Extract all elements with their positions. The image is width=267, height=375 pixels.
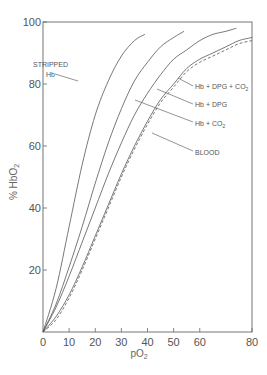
curve-hb-dpg-co2 — [43, 38, 252, 333]
x-tick-label: 20 — [89, 336, 101, 348]
x-tick-label: 30 — [115, 336, 127, 348]
y-tick-label: 40 — [29, 202, 41, 214]
x-tick-label: 40 — [141, 336, 153, 348]
x-axis-title: pO2 — [130, 348, 147, 360]
curve-hb-co2 — [43, 31, 184, 332]
label-stripped: STRIPPED — [33, 61, 68, 68]
x-tick-label: 10 — [63, 336, 75, 348]
x-tick-label: 60 — [194, 336, 206, 348]
label-blood: BLOOD — [195, 149, 220, 156]
label-hb-dpg: Hb + DPG — [195, 101, 227, 108]
y-axis-title: % HbO2 — [8, 164, 20, 200]
x-tick-label: 80 — [246, 336, 258, 348]
oxygen-dissociation-chart: 01020304050608020406080100 STRIPPED Hb H… — [0, 0, 267, 375]
x-tick-label: 50 — [168, 336, 180, 348]
label-hb-co2: Hb + CO2 — [195, 120, 225, 129]
curves — [43, 28, 252, 332]
annotations: STRIPPED Hb Hb + DPG + CO2 Hb + DPG Hb +… — [33, 61, 249, 156]
x-tick-label: 0 — [40, 336, 46, 348]
y-tick-label: 100 — [23, 16, 41, 28]
curve-stripped-hb — [43, 34, 145, 332]
y-tick-label: 20 — [29, 264, 41, 276]
y-tick-label: 60 — [29, 140, 41, 152]
curve-hb-dpg — [43, 28, 236, 332]
label-stripped-hb: Hb — [46, 71, 55, 78]
plot-frame — [43, 22, 252, 332]
label-hb-dpg-co2: Hb + DPG + CO2 — [195, 83, 249, 92]
y-tick-label: 80 — [29, 78, 41, 90]
